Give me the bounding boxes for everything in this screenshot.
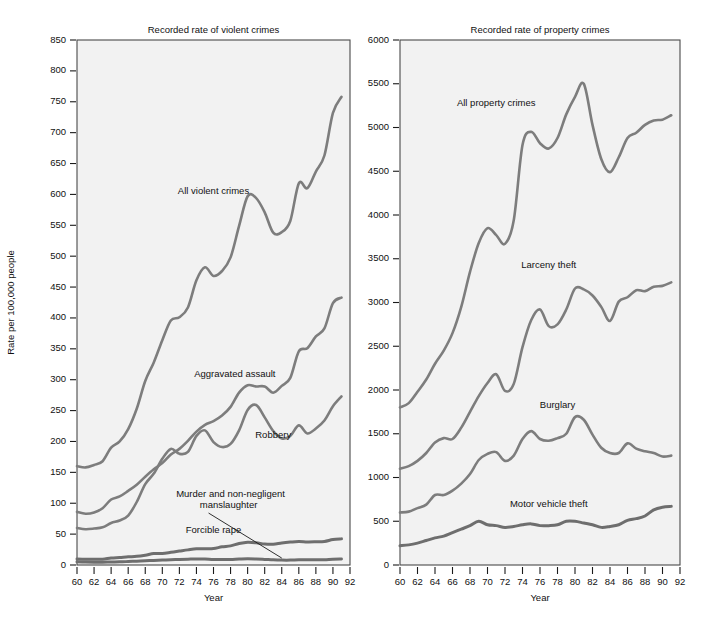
series-label-all-violent-crimes: All violent crimes bbox=[178, 185, 250, 196]
y-tick-label: 500 bbox=[373, 515, 389, 526]
y-tick-label: 150 bbox=[50, 466, 66, 477]
y-tick-label: 5500 bbox=[368, 77, 389, 88]
x-tick-label: 82 bbox=[259, 576, 270, 587]
y-tick-label: 5000 bbox=[368, 121, 389, 132]
x-tick-label: 72 bbox=[174, 576, 185, 587]
series-label-larceny-theft: Larceny theft bbox=[521, 259, 576, 270]
series-label-motor-vehicle-theft: Motor vehicle theft bbox=[510, 498, 588, 509]
y-tick-label: 6000 bbox=[368, 34, 389, 45]
y-tick-label: 500 bbox=[50, 250, 66, 261]
y-tick-label: 550 bbox=[50, 219, 66, 230]
x-tick-label: 88 bbox=[311, 576, 322, 587]
chart-title: Recorded rate of violent crimes bbox=[148, 24, 280, 35]
y-tick-label: 450 bbox=[50, 281, 66, 292]
y-tick-label: 750 bbox=[50, 95, 66, 106]
y-tick-label: 400 bbox=[50, 311, 66, 322]
series-label-murder-and-non-negligent-manslaughter: Murder and non-negligent bbox=[176, 488, 285, 499]
x-tick-label: 70 bbox=[157, 576, 168, 587]
property-crimes-chart: Recorded rate of property crimes05001000… bbox=[355, 0, 713, 633]
x-tick-label: 64 bbox=[106, 576, 117, 587]
y-tick-label: 1500 bbox=[368, 427, 389, 438]
x-tick-label: 86 bbox=[294, 576, 305, 587]
x-tick-label: 60 bbox=[395, 576, 406, 587]
x-tick-label: 68 bbox=[140, 576, 151, 587]
y-tick-label: 600 bbox=[50, 188, 66, 199]
x-tick-label: 80 bbox=[242, 576, 253, 587]
x-tick-label: 78 bbox=[225, 576, 236, 587]
y-tick-label: 700 bbox=[50, 126, 66, 137]
x-tick-label: 60 bbox=[72, 576, 83, 587]
y-tick-label: 2000 bbox=[368, 384, 389, 395]
y-tick-label: 3000 bbox=[368, 296, 389, 307]
x-tick-label: 62 bbox=[412, 576, 423, 587]
series-label-aggravated-assault: Aggravated assault bbox=[194, 368, 276, 379]
plot-background bbox=[400, 40, 680, 565]
x-tick-label: 68 bbox=[465, 576, 476, 587]
x-tick-label: 92 bbox=[345, 576, 356, 587]
series-label-burglary: Burglary bbox=[540, 399, 576, 410]
x-tick-label: 64 bbox=[430, 576, 441, 587]
y-tick-label: 4000 bbox=[368, 209, 389, 220]
y-tick-label: 350 bbox=[50, 342, 66, 353]
y-tick-label: 2500 bbox=[368, 340, 389, 351]
x-tick-label: 74 bbox=[191, 576, 202, 587]
x-tick-label: 70 bbox=[482, 576, 493, 587]
x-tick-label: 66 bbox=[447, 576, 458, 587]
y-tick-label: 50 bbox=[55, 528, 66, 539]
x-tick-label: 88 bbox=[640, 576, 651, 587]
y-tick-label: 250 bbox=[50, 404, 66, 415]
y-tick-label: 0 bbox=[61, 559, 66, 570]
series-label-forcible-rape: Forcible rape bbox=[186, 524, 241, 535]
x-tick-label: 80 bbox=[570, 576, 581, 587]
x-tick-label: 84 bbox=[276, 576, 287, 587]
x-axis-title: Year bbox=[204, 592, 223, 603]
series-label-murder-and-non-negligent-manslaughter-line2: manslaughter bbox=[200, 499, 258, 510]
property-crimes-panel: Recorded rate of property crimes05001000… bbox=[355, 0, 713, 633]
x-tick-label: 74 bbox=[517, 576, 528, 587]
violent-crimes-chart: Recorded rate of violent crimes050100150… bbox=[0, 0, 358, 633]
x-tick-label: 72 bbox=[500, 576, 511, 587]
x-tick-label: 66 bbox=[123, 576, 134, 587]
series-label-robbery: Robbery bbox=[255, 429, 291, 440]
x-tick-label: 86 bbox=[622, 576, 633, 587]
y-tick-label: 800 bbox=[50, 64, 66, 75]
y-axis-title: Rate per 100,000 people bbox=[5, 250, 16, 355]
violent-crimes-panel: Recorded rate of violent crimes050100150… bbox=[0, 0, 358, 633]
crime-rate-figure: Recorded rate of violent crimes050100150… bbox=[0, 0, 713, 633]
y-tick-label: 4500 bbox=[368, 165, 389, 176]
y-tick-label: 3500 bbox=[368, 252, 389, 263]
x-tick-label: 78 bbox=[552, 576, 563, 587]
y-tick-label: 200 bbox=[50, 435, 66, 446]
y-tick-label: 850 bbox=[50, 34, 66, 45]
x-tick-label: 92 bbox=[675, 576, 686, 587]
x-tick-label: 82 bbox=[587, 576, 598, 587]
y-tick-label: 300 bbox=[50, 373, 66, 384]
chart-title: Recorded rate of property crimes bbox=[471, 24, 610, 35]
series-label-all-property-crimes: All property crimes bbox=[457, 97, 536, 108]
plot-background bbox=[77, 40, 350, 565]
x-axis-title: Year bbox=[530, 592, 549, 603]
y-tick-label: 1000 bbox=[368, 471, 389, 482]
y-tick-label: 100 bbox=[50, 497, 66, 508]
x-tick-label: 62 bbox=[89, 576, 100, 587]
x-tick-label: 90 bbox=[657, 576, 668, 587]
y-tick-label: 0 bbox=[384, 559, 389, 570]
x-tick-label: 84 bbox=[605, 576, 616, 587]
y-tick-label: 650 bbox=[50, 157, 66, 168]
x-tick-label: 90 bbox=[328, 576, 339, 587]
x-tick-label: 76 bbox=[208, 576, 219, 587]
x-tick-label: 76 bbox=[535, 576, 546, 587]
